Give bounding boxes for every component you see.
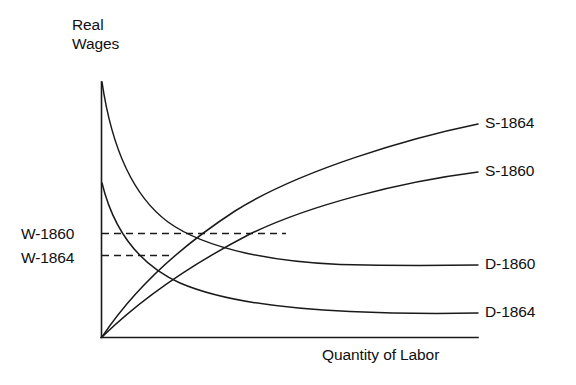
labor-market-diagram: Real Wages Quantity of Labor W-1860 W-18… (0, 0, 576, 385)
curve-label-s-1864: S-1864 (485, 113, 534, 132)
y-axis-label-line2: Wages (72, 34, 119, 53)
curve-s-1864 (102, 124, 478, 337)
wage-label-1864: W-1864 (21, 248, 74, 267)
wage-label-1860: W-1860 (21, 224, 74, 243)
curve-s-1860 (102, 172, 478, 337)
curve-label-d-1864: D-1864 (485, 302, 535, 321)
curve-label-s-1860: S-1860 (485, 161, 534, 180)
chart-canvas (0, 0, 576, 385)
x-axis-label: Quantity of Labor (322, 345, 439, 364)
y-axis-label: Real Wages (72, 15, 119, 53)
curve-label-d-1860: D-1860 (485, 254, 535, 273)
curve-d-1860 (102, 82, 478, 266)
curve-d-1864 (102, 183, 478, 313)
y-axis-label-line1: Real (72, 15, 119, 34)
